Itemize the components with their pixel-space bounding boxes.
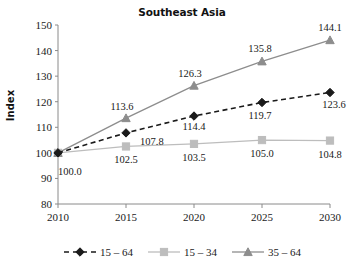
data-point-label: 104.8 [318, 149, 342, 160]
triangle-marker [122, 114, 130, 122]
chart-legend: 15 – 6415 – 3435 – 64 [0, 246, 364, 258]
diamond-marker [258, 98, 266, 106]
x-tick-label: 2030 [319, 211, 342, 223]
y-tick-label: 110 [36, 121, 53, 133]
triangle-marker-icon [231, 246, 265, 258]
series-line [58, 40, 330, 153]
legend-item-1[interactable]: 15 – 34 [147, 246, 217, 258]
series-2: 113.6126.3135.8144.1 [54, 22, 342, 156]
triangle-marker [326, 36, 334, 44]
plot-area: 8090100110120130140150201020152020202520… [0, 0, 364, 262]
legend-label: 15 – 64 [100, 246, 133, 258]
y-tick-label: 140 [36, 45, 53, 57]
square-marker-icon [147, 246, 181, 258]
y-tick-label: 150 [36, 19, 53, 31]
x-tick-label: 2025 [251, 211, 274, 223]
data-point-label: 102.5 [114, 154, 138, 165]
data-point-label: 114.4 [182, 121, 206, 132]
data-point-label: 144.1 [318, 22, 342, 33]
x-tick-label: 2020 [183, 211, 206, 223]
data-point-label: 107.8 [140, 136, 164, 147]
legend-item-2[interactable]: 35 – 64 [231, 246, 301, 258]
diamond-marker-icon [63, 246, 97, 258]
x-tick-label: 2010 [47, 211, 70, 223]
data-point-label: 135.8 [248, 43, 272, 54]
square-marker [190, 140, 197, 147]
y-tick-label: 130 [36, 70, 53, 82]
diamond-marker [122, 129, 130, 137]
square-marker [122, 143, 129, 150]
y-tick-label: 100 [36, 147, 53, 159]
data-point-label: 126.3 [178, 68, 202, 79]
y-tick-label: 80 [41, 198, 53, 210]
x-tick-label: 2015 [115, 211, 138, 223]
data-point-label: 113.6 [110, 101, 133, 112]
y-tick-label: 120 [36, 96, 53, 108]
data-point-label: 119.7 [248, 110, 271, 121]
data-point-label: 123.6 [322, 99, 346, 110]
diamond-marker [190, 112, 198, 120]
data-point-label: 103.5 [182, 152, 206, 163]
y-tick-label: 90 [41, 172, 53, 184]
diamond-marker [76, 248, 84, 256]
data-point-label: 105.0 [250, 148, 274, 159]
series-1: 102.5103.5105.0104.8 [54, 136, 341, 165]
triangle-marker [190, 81, 198, 89]
square-marker [326, 137, 333, 144]
square-marker [160, 248, 167, 255]
square-marker [258, 136, 265, 143]
diamond-marker [326, 88, 334, 96]
chart-container: Southeast Asia Index 8090100110120130140… [0, 0, 364, 262]
legend-label: 35 – 64 [268, 246, 301, 258]
legend-label: 15 – 34 [184, 246, 217, 258]
data-point-label: 100.0 [58, 166, 82, 177]
legend-item-0[interactable]: 15 – 64 [63, 246, 133, 258]
